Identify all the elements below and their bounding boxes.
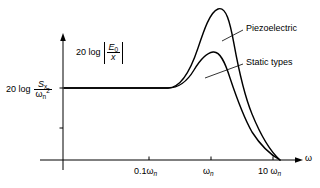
y-axis-outer-label-fraction: Sx ωn2 bbox=[34, 80, 52, 100]
annotation-static-types: Static types bbox=[246, 58, 293, 67]
x-tick-label-10wn: 10 ωn bbox=[258, 167, 281, 176]
y-axis-arrowhead bbox=[60, 33, 66, 41]
y-axis-inner-label-fraction: E0 ¨x bbox=[107, 43, 121, 63]
y-axis-outer-label: 20 log Sx ωn2 bbox=[6, 80, 52, 100]
x-axis-label: ω bbox=[305, 154, 312, 163]
y-axis-outer-denominator: ωn2 bbox=[34, 90, 52, 99]
absolute-value-bars: E0 ¨x bbox=[104, 42, 124, 64]
x-tick-label-wn: ωn bbox=[203, 167, 214, 176]
double-dot-accent: ¨ bbox=[112, 48, 114, 55]
leader-line-static-types bbox=[205, 64, 243, 78]
annotation-piezoelectric: Piezoelectric bbox=[246, 24, 297, 33]
y-axis-inner-label: 20 log E0 ¨x bbox=[76, 42, 123, 64]
x-tick-label-0p1wn: 0.1ωn bbox=[134, 167, 157, 176]
figure-container: 20 log Sx ωn2 20 log E0 ¨x Piezoelectric… bbox=[0, 0, 320, 188]
curve-static-types bbox=[64, 52, 280, 160]
y-axis-inner-label-prefix: 20 log bbox=[76, 48, 101, 57]
y-axis-inner-denominator: ¨x bbox=[107, 53, 121, 62]
y-axis-outer-label-prefix: 20 log bbox=[6, 85, 31, 94]
x-axis-arrowhead bbox=[295, 157, 303, 163]
